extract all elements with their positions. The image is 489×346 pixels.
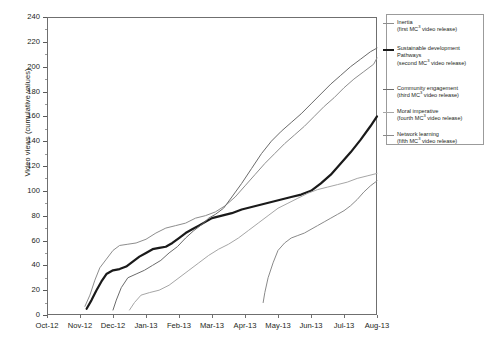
- y-tick-label: 120: [14, 162, 40, 170]
- y-tick-mark: [43, 166, 47, 167]
- y-tick-label: 60: [14, 237, 40, 245]
- y-minor-tick-mark: [45, 154, 47, 155]
- y-tick-label: 220: [14, 38, 40, 46]
- legend-line-swatch: [383, 112, 394, 113]
- x-tick-mark: [47, 315, 48, 318]
- x-tick-mark: [377, 315, 378, 318]
- y-minor-tick-mark: [45, 129, 47, 130]
- y-tick-label: 0: [14, 311, 40, 319]
- x-tick-mark: [80, 315, 81, 318]
- y-tick-mark: [43, 67, 47, 68]
- legend-item-label: Community engagement(third MC3 video rel…: [397, 85, 459, 100]
- x-tick-mark: [179, 315, 180, 318]
- y-tick-label: 200: [14, 63, 40, 71]
- y-tick-label: 100: [14, 187, 40, 195]
- legend-series-sublabel: (second MC3 video release): [397, 60, 483, 67]
- y-tick-label: 80: [14, 212, 40, 220]
- y-minor-tick-mark: [45, 29, 47, 30]
- y-tick-mark: [43, 265, 47, 266]
- y-tick-label: 40: [14, 261, 40, 269]
- legend-item-3[interactable]: Moral imperative(fourth MC3 video releas…: [383, 108, 483, 123]
- y-tick-mark: [43, 141, 47, 142]
- y-minor-tick-mark: [45, 228, 47, 229]
- legend: Inertia(first MC3 video release)Sustaina…: [386, 14, 484, 145]
- legend-line-swatch: [383, 135, 394, 136]
- y-tick-label: 20: [14, 286, 40, 294]
- legend-item-label: Network learning(fifth MC3 video release…: [397, 131, 457, 146]
- y-tick-mark: [43, 191, 47, 192]
- chart-figure: Video views (cumulative values) 02040608…: [0, 0, 489, 346]
- legend-line-swatch: [383, 49, 394, 51]
- legend-series-name: Community engagement: [397, 85, 458, 91]
- y-tick-mark: [43, 17, 47, 18]
- x-tick-mark: [311, 315, 312, 318]
- legend-item-0[interactable]: Inertia(first MC3 video release): [383, 19, 483, 34]
- legend-item-4[interactable]: Network learning(fifth MC3 video release…: [383, 131, 483, 146]
- x-tick-mark: [212, 315, 213, 318]
- x-tick-label: Aug-13: [355, 321, 399, 330]
- y-tick-mark: [43, 92, 47, 93]
- y-tick-mark: [43, 241, 47, 242]
- y-minor-tick-mark: [45, 79, 47, 80]
- legend-series-name: Inertia: [397, 19, 413, 25]
- y-tick-label: 240: [14, 13, 40, 21]
- y-tick-mark: [43, 116, 47, 117]
- legend-series-name: Sustainable development Pathways: [397, 45, 460, 58]
- y-tick-mark: [43, 290, 47, 291]
- y-tick-label: 180: [14, 88, 40, 96]
- y-minor-tick-mark: [45, 54, 47, 55]
- x-tick-mark: [245, 315, 246, 318]
- y-tick-mark: [43, 216, 47, 217]
- legend-item-1[interactable]: Sustainable development Pathways(second …: [383, 45, 483, 67]
- x-tick-mark: [344, 315, 345, 318]
- legend-series-sublabel: (fifth MC3 video release): [397, 138, 457, 145]
- legend-series-sublabel: (first MC3 video release): [397, 26, 457, 33]
- x-tick-mark: [146, 315, 147, 318]
- x-tick-mark: [278, 315, 279, 318]
- y-tick-label: 160: [14, 112, 40, 120]
- plot-area: [47, 17, 377, 315]
- x-tick-mark: [113, 315, 114, 318]
- legend-line-swatch: [383, 23, 394, 24]
- legend-item-label: Sustainable development Pathways(second …: [397, 45, 483, 67]
- legend-series-name: Moral imperative: [397, 108, 438, 114]
- legend-series-sublabel: (fourth MC3 video release): [397, 115, 462, 122]
- legend-line-swatch: [383, 89, 394, 90]
- y-tick-mark: [43, 42, 47, 43]
- y-minor-tick-mark: [45, 203, 47, 204]
- y-minor-tick-mark: [45, 104, 47, 105]
- legend-item-label: Moral imperative(fourth MC3 video releas…: [397, 108, 462, 123]
- y-minor-tick-mark: [45, 253, 47, 254]
- legend-item-2[interactable]: Community engagement(third MC3 video rel…: [383, 85, 483, 100]
- legend-series-sublabel: (third MC3 video release): [397, 92, 459, 99]
- y-minor-tick-mark: [45, 303, 47, 304]
- y-tick-label: 140: [14, 137, 40, 145]
- y-minor-tick-mark: [45, 278, 47, 279]
- y-minor-tick-mark: [45, 178, 47, 179]
- legend-item-label: Inertia(first MC3 video release): [397, 19, 457, 34]
